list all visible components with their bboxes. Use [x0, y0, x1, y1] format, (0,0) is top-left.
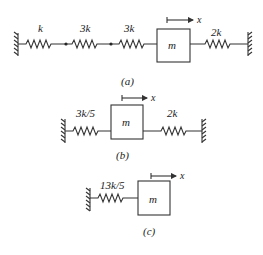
spring-3k-2	[111, 40, 157, 48]
spring-3k-5	[65, 127, 111, 135]
spring-label: 2k	[167, 107, 179, 119]
right-wall-icon	[202, 119, 206, 143]
spring-2k	[143, 127, 202, 135]
panel-b	[61, 95, 206, 143]
spring-13k-5	[90, 194, 138, 202]
panel-caption: (b)	[116, 149, 129, 162]
displacement-label: x	[196, 14, 202, 25]
displacement-arrow-icon	[167, 17, 193, 23]
spring-label: 13k/5	[100, 179, 125, 191]
spring-k	[18, 40, 66, 48]
panel-caption: (c)	[143, 225, 156, 238]
mass-label: m	[168, 39, 176, 51]
spring-2k	[190, 40, 248, 48]
spring-label: 3k	[79, 22, 92, 34]
displacement-label: x	[150, 92, 156, 103]
mass-label: m	[149, 193, 157, 205]
spring-label: k	[38, 22, 44, 34]
panel-caption: (a)	[121, 75, 134, 88]
left-wall-icon	[86, 188, 90, 211]
left-wall-icon	[61, 119, 65, 143]
spring-mass-diagram: k 3k 3k 2k m x (a) 3k/5 2k m x (b) 13k/5…	[0, 0, 263, 255]
spring-label: 3k	[123, 22, 136, 34]
displacement-arrow-icon	[122, 95, 147, 101]
spring-label: 3k/5	[75, 107, 95, 119]
displacement-label: x	[179, 170, 185, 181]
spring-label: 2k	[211, 26, 223, 38]
spring-3k	[66, 40, 111, 48]
right-wall-icon	[248, 32, 252, 56]
mass-label: m	[122, 116, 130, 128]
left-wall-icon	[14, 32, 18, 56]
displacement-arrow-icon	[151, 173, 176, 179]
